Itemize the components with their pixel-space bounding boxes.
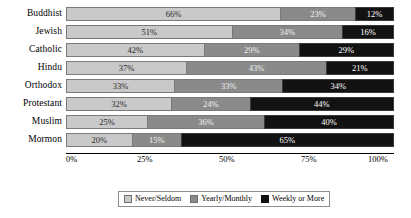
bar-segment: 43%: [186, 61, 326, 75]
stacked-bar: 51%34%16%: [66, 25, 394, 39]
legend-item[interactable]: Weekly or More: [261, 195, 324, 203]
legend-item[interactable]: Never/Seldom: [124, 195, 181, 203]
bar-segment: 40%: [264, 115, 394, 129]
bar-segment: 33%: [66, 79, 174, 93]
stacked-bar: 32%24%44%: [66, 97, 394, 111]
bar-segment: 25%: [66, 115, 147, 129]
bar-segment-value: 24%: [203, 100, 219, 109]
category-label: Jewish: [0, 27, 66, 37]
category-label: Protestant: [0, 99, 66, 109]
bar-segment: 24%: [171, 97, 250, 111]
x-tick-label: 0%: [66, 155, 77, 164]
bar-segment: 23%: [280, 7, 355, 21]
bar-segment-value: 33%: [221, 82, 237, 91]
stacked-bar: 37%43%21%: [66, 61, 394, 75]
bar-segment-value: 15%: [149, 136, 165, 145]
stacked-bar-chart: Buddhist66%23%12%Jewish51%34%16%Catholic…: [0, 0, 411, 218]
bar-segment-value: 36%: [198, 118, 214, 127]
chart-legend: Never/SeldomYearly/MonthlyWeekly or More: [118, 191, 330, 207]
chart-row: Buddhist66%23%12%: [0, 5, 411, 23]
legend-label: Yearly/Monthly: [201, 195, 252, 203]
bar-segment: 20%: [66, 133, 132, 147]
legend-swatch-icon: [124, 195, 132, 203]
bar-segment: 32%: [66, 97, 171, 111]
bar-segment-value: 37%: [119, 64, 135, 73]
bar-segment-value: 16%: [360, 28, 376, 37]
bar-segment-value: 66%: [166, 10, 182, 19]
chart-row: Protestant32%24%44%: [0, 95, 411, 113]
bar-segment-value: 42%: [128, 46, 144, 55]
bar-segment-value: 65%: [280, 136, 296, 145]
bar-segment: 44%: [250, 97, 394, 111]
chart-row: Orthodox33%33%34%: [0, 77, 411, 95]
bar-segment: 66%: [66, 7, 280, 21]
bar-segment-value: 51%: [142, 28, 158, 37]
bar-segment-value: 23%: [310, 10, 326, 19]
bar-segment: 51%: [66, 25, 232, 39]
bar-segment: 16%: [342, 25, 394, 39]
bar-segment: 37%: [66, 61, 186, 75]
category-label: Hindu: [0, 63, 66, 73]
category-label: Muslim: [0, 117, 66, 127]
legend-label: Never/Seldom: [135, 195, 181, 203]
chart-row: Mormon20%15%65%: [0, 131, 411, 149]
chart-plot-area: Buddhist66%23%12%Jewish51%34%16%Catholic…: [0, 5, 411, 149]
legend-label: Weekly or More: [272, 195, 324, 203]
category-label: Buddhist: [0, 9, 66, 19]
x-tick-label: 50%: [219, 155, 235, 164]
bar-segment-value: 25%: [99, 118, 115, 127]
x-tick-label: 75%: [301, 155, 317, 164]
stacked-bar: 42%29%29%: [66, 43, 394, 57]
bar-segment: 42%: [66, 43, 204, 57]
bar-segment-value: 20%: [92, 136, 108, 145]
bar-segment-value: 32%: [111, 100, 127, 109]
category-label: Catholic: [0, 45, 66, 55]
stacked-bar: 20%15%65%: [66, 133, 394, 147]
legend-swatch-icon: [190, 195, 198, 203]
category-label: Orthodox: [0, 81, 66, 91]
bar-segment: 65%: [181, 133, 394, 147]
bar-segment-value: 29%: [339, 46, 355, 55]
bar-segment-value: 21%: [352, 64, 368, 73]
chart-row: Catholic42%29%29%: [0, 41, 411, 59]
bar-segment-value: 44%: [314, 100, 330, 109]
bar-segment-value: 34%: [330, 82, 346, 91]
legend-item[interactable]: Yearly/Monthly: [190, 195, 252, 203]
bar-segment: 36%: [147, 115, 264, 129]
category-label: Mormon: [0, 135, 66, 145]
stacked-bar: 33%33%34%: [66, 79, 394, 93]
bar-segment-value: 29%: [244, 46, 260, 55]
bar-segment: 34%: [282, 79, 394, 93]
bar-segment: 29%: [299, 43, 394, 57]
stacked-bar: 66%23%12%: [66, 7, 394, 21]
x-axis-tick-labels: 0%25%50%75%100%: [0, 155, 411, 169]
legend-swatch-icon: [261, 195, 269, 203]
bar-segment-value: 12%: [367, 10, 383, 19]
chart-row: Jewish51%34%16%: [0, 23, 411, 41]
bar-segment: 21%: [326, 61, 394, 75]
chart-row: Hindu37%43%21%: [0, 59, 411, 77]
x-tick-label: 100%: [368, 155, 388, 164]
bar-segment: 12%: [355, 7, 394, 21]
bar-segment-value: 34%: [280, 28, 296, 37]
bar-segment: 33%: [174, 79, 282, 93]
bar-segment: 15%: [132, 133, 181, 147]
bar-segment: 34%: [232, 25, 342, 39]
bar-segment-value: 43%: [249, 64, 265, 73]
chart-row: Muslim25%36%40%: [0, 113, 411, 131]
bar-segment-value: 40%: [321, 118, 337, 127]
bar-segment-value: 33%: [113, 82, 129, 91]
bar-segment: 29%: [204, 43, 299, 57]
stacked-bar: 25%36%40%: [66, 115, 394, 129]
x-tick-label: 25%: [137, 155, 153, 164]
